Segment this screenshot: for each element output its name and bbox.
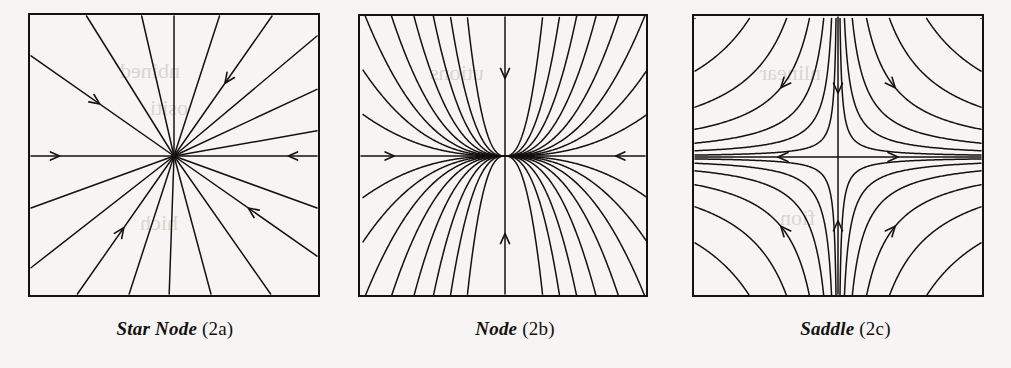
caption-saddle-name: Saddle xyxy=(800,318,854,339)
equilibrium-point xyxy=(171,153,176,158)
panel-star-node xyxy=(28,13,320,297)
caption-star-node: Star Node (2a) xyxy=(0,318,350,340)
caption-node: Node (2b) xyxy=(350,318,680,340)
caption-saddle-tag: (2c) xyxy=(859,318,890,339)
caption-node-tag: (2b) xyxy=(522,318,554,339)
panel-saddle xyxy=(692,14,984,297)
node-trajectories xyxy=(361,15,647,297)
node-svg xyxy=(358,14,648,297)
panel-node xyxy=(358,14,648,297)
caption-saddle: Saddle (2c) xyxy=(680,318,1011,340)
phase-portrait-figure: nbined ositi hich utions nlinear fion St… xyxy=(0,0,1011,368)
caption-node-name: Node xyxy=(475,318,517,339)
saddle-svg xyxy=(692,14,984,297)
caption-star-node-name: Star Node xyxy=(117,318,197,339)
saddle-trajectories xyxy=(695,17,981,296)
caption-star-node-tag: (2a) xyxy=(202,318,233,339)
star-node-svg xyxy=(28,13,320,297)
